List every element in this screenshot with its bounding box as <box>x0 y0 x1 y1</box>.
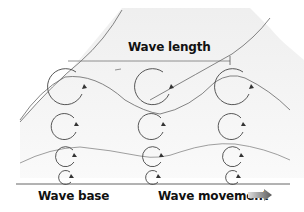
wave-length-label: Wave length <box>128 40 211 54</box>
wave-illustration <box>0 0 304 212</box>
right-arrow-icon <box>248 189 272 201</box>
wave-base-label: Wave base <box>38 189 109 203</box>
wave-diagram: Wave length Wave base Wave movement <box>0 0 304 212</box>
